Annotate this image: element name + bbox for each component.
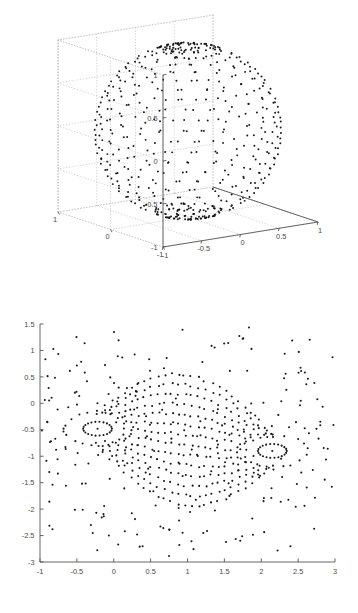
data-point	[217, 118, 219, 120]
data-point	[280, 120, 282, 122]
data-point	[189, 425, 191, 427]
data-point	[191, 505, 193, 507]
data-point	[149, 490, 151, 492]
data-point	[196, 79, 198, 81]
data-point	[246, 370, 248, 372]
data-point	[143, 478, 145, 480]
data-point	[116, 75, 118, 77]
data-point	[212, 392, 214, 394]
data-point	[219, 491, 221, 493]
data-point	[211, 482, 213, 484]
vortex-scatter-2d-figure: -3-2.5-2-1.5-1-0.500.511.5-1-0.500.511.5…	[0, 285, 358, 613]
data-point	[137, 398, 139, 400]
data-point	[244, 442, 246, 444]
data-point	[144, 56, 146, 58]
data-point	[103, 515, 105, 517]
data-point	[203, 465, 205, 467]
data-point	[246, 93, 248, 95]
data-point	[101, 128, 103, 130]
data-point	[216, 422, 218, 424]
data-point	[96, 124, 98, 126]
data-point	[127, 147, 129, 149]
data-point	[183, 41, 185, 43]
data-point	[192, 213, 194, 215]
data-point	[104, 169, 106, 171]
data-point	[44, 358, 46, 360]
data-point	[164, 488, 166, 490]
data-point	[62, 430, 64, 432]
data-point	[83, 426, 85, 428]
data-point	[235, 95, 237, 97]
data-point	[131, 470, 133, 472]
data-point	[291, 339, 293, 341]
data-point	[229, 209, 231, 211]
data-point	[183, 443, 185, 445]
data-point	[258, 452, 260, 454]
data-point	[143, 111, 145, 113]
data-point	[178, 374, 180, 376]
data-point	[144, 405, 146, 407]
data-point	[223, 128, 225, 130]
data-point	[118, 187, 120, 189]
data-point	[124, 392, 126, 394]
data-point	[145, 209, 147, 211]
data-point	[131, 476, 133, 478]
x-tick-label: 1	[185, 567, 189, 576]
data-point	[233, 67, 235, 69]
data-point	[151, 405, 153, 407]
data-point	[231, 395, 233, 397]
data-point	[204, 43, 206, 45]
data-point	[280, 132, 282, 134]
data-point	[223, 480, 225, 482]
data-point	[228, 434, 230, 436]
z-tick	[163, 117, 166, 118]
data-point	[286, 450, 288, 452]
data-point	[220, 50, 222, 52]
data-point	[228, 482, 230, 484]
data-point	[268, 467, 270, 469]
data-point	[299, 459, 301, 461]
data-point	[196, 180, 198, 182]
data-point	[117, 397, 119, 399]
data-point	[123, 136, 125, 138]
data-point	[250, 402, 252, 404]
data-point	[144, 462, 146, 464]
data-point	[153, 195, 155, 197]
data-point	[226, 457, 228, 459]
data-point	[250, 348, 252, 350]
data-point	[110, 143, 112, 145]
data-point	[96, 549, 98, 551]
data-point	[153, 153, 155, 155]
data-point	[112, 183, 114, 185]
data-point	[185, 49, 187, 51]
data-point	[222, 179, 224, 181]
data-point	[109, 431, 111, 433]
data-point	[135, 390, 137, 392]
data-point	[52, 484, 54, 486]
data-point	[204, 418, 206, 420]
data-point	[236, 451, 238, 453]
data-point	[172, 421, 174, 423]
data-point	[125, 420, 127, 422]
data-point	[208, 79, 210, 81]
data-point	[183, 454, 185, 456]
data-point	[228, 495, 230, 497]
data-point	[75, 336, 77, 338]
data-point	[49, 441, 51, 443]
data-point	[78, 414, 80, 416]
data-point	[231, 480, 233, 482]
data-point	[237, 470, 239, 472]
data-point	[222, 142, 224, 144]
data-point	[118, 412, 120, 414]
data-point	[319, 424, 321, 426]
data-point	[110, 177, 112, 179]
data-point	[232, 207, 234, 209]
data-point	[82, 428, 84, 430]
data-point	[94, 119, 96, 121]
x-tick-label: -1	[162, 251, 169, 260]
data-point	[198, 141, 200, 143]
data-point	[186, 209, 188, 211]
data-point	[118, 190, 120, 192]
data-point	[120, 90, 122, 92]
data-point	[183, 485, 185, 487]
